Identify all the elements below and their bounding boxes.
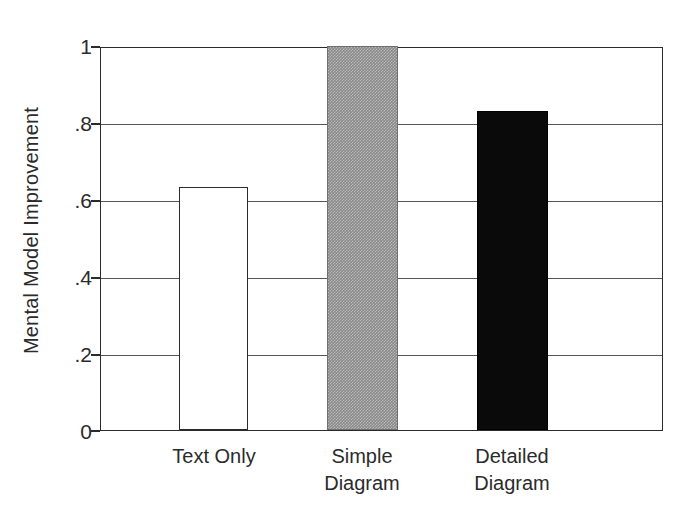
y-tick-label-1: 1 (52, 36, 92, 57)
plot-area (100, 47, 663, 431)
x-category-label-simple-diagram: Simple Diagram (282, 443, 442, 497)
y-axis-title: Mental Model Improvement (20, 81, 43, 381)
x-category-label-text-only: Text Only (134, 443, 294, 470)
y-tick-label-0.2: .2 (52, 344, 92, 365)
bar-detailed-diagram (477, 111, 548, 430)
y-tick-label-0.6: .6 (52, 190, 92, 211)
bar-text-only (179, 187, 248, 430)
x-category-label-detailed-diagram: Detailed Diagram (432, 443, 592, 497)
bar-simple-diagram (327, 46, 398, 430)
bar-chart: Mental Model Improvement 1 .8 .6 .4 .2 0… (0, 0, 697, 515)
y-tick-mark-0.6 (91, 200, 100, 202)
y-tick-mark-0.8 (91, 123, 100, 125)
y-tick-mark-0.2 (91, 354, 100, 356)
y-tick-label-0.8: .8 (52, 113, 92, 134)
y-axis-tick-labels: 1 .8 .6 .4 .2 0 (52, 0, 92, 515)
y-tick-mark-0 (91, 430, 100, 432)
y-tick-mark-1 (91, 46, 100, 48)
y-tick-mark-0.4 (91, 277, 100, 279)
y-tick-label-0: 0 (52, 421, 92, 442)
y-tick-label-0.4: .4 (52, 267, 92, 288)
